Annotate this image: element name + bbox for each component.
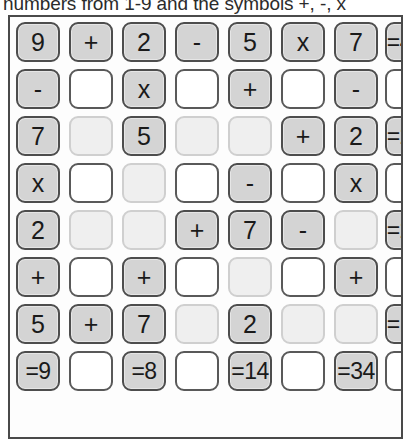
puzzle-cell-r1-c2: + <box>69 22 113 62</box>
puzzle-cell-r4-c7: x <box>334 163 378 203</box>
puzzle-cell-r6-c3: + <box>122 257 166 297</box>
puzzle-cell-r6-c2[interactable] <box>69 257 113 297</box>
puzzle-cell-r3-c7: 2 <box>334 116 378 156</box>
instruction-text: se numbers from 1-9 and the symbols +, -… <box>0 0 346 15</box>
puzzle-cell-r5-c1: 2 <box>16 210 60 250</box>
puzzle-cell-r7-c5: 2 <box>228 304 272 344</box>
puzzle-cell-r2-c5: + <box>228 69 272 109</box>
puzzle-cell-r4-c8[interactable] <box>385 163 403 203</box>
puzzle-cell-r5-c4: + <box>175 210 219 250</box>
puzzle-cell-r5-c2[interactable] <box>69 210 113 250</box>
puzzle-cell-r8-c2[interactable] <box>69 351 113 391</box>
puzzle-cell-r1-c7: 7 <box>334 22 378 62</box>
puzzle-cell-r6-c1: + <box>16 257 60 297</box>
puzzle-cell-r1-c8: =42 <box>385 22 403 62</box>
puzzle-cell-r2-c4[interactable] <box>175 69 219 109</box>
puzzle-cell-r6-c7: + <box>334 257 378 297</box>
puzzle-cell-r4-c2[interactable] <box>69 163 113 203</box>
puzzle-cell-r6-c6[interactable] <box>281 257 325 297</box>
puzzle-grid: 9+2-5x7=42-x+-75+2=20x-x2+7-=20+++5+72=1… <box>12 19 403 394</box>
puzzle-cell-r6-c4[interactable] <box>175 257 219 297</box>
puzzle-cell-r4-c3[interactable] <box>122 163 166 203</box>
puzzle-cell-r1-c6: x <box>281 22 325 62</box>
puzzle-cell-r6-c5[interactable] <box>228 257 272 297</box>
puzzle-cell-r7-c7[interactable] <box>334 304 378 344</box>
puzzle-cell-r4-c5: - <box>228 163 272 203</box>
puzzle-cell-r8-c6[interactable] <box>281 351 325 391</box>
puzzle-cell-r7-c1: 5 <box>16 304 60 344</box>
puzzle-cell-r3-c1: 7 <box>16 116 60 156</box>
puzzle-cell-r5-c5: 7 <box>228 210 272 250</box>
puzzle-cell-r7-c4[interactable] <box>175 304 219 344</box>
puzzle-cell-r3-c5[interactable] <box>228 116 272 156</box>
puzzle-cell-r1-c4: - <box>175 22 219 62</box>
puzzle-cell-r2-c8[interactable] <box>385 69 403 109</box>
puzzle-cell-r8-c3: =8 <box>122 351 166 391</box>
puzzle-cell-r1-c1: 9 <box>16 22 60 62</box>
puzzle-cell-r3-c8: =20 <box>385 116 403 156</box>
puzzle-cell-r6-c8[interactable] <box>385 257 403 297</box>
puzzle-cell-r3-c2[interactable] <box>69 116 113 156</box>
puzzle-cell-r5-c8: =20 <box>385 210 403 250</box>
puzzle-cell-r8-c1: =9 <box>16 351 60 391</box>
instruction-bar: se numbers from 1-9 and the symbols +, -… <box>0 0 411 16</box>
puzzle-cell-r5-c3[interactable] <box>122 210 166 250</box>
puzzle-cell-r2-c6[interactable] <box>281 69 325 109</box>
puzzle-cell-r1-c5: 5 <box>228 22 272 62</box>
puzzle-cell-r3-c3: 5 <box>122 116 166 156</box>
puzzle-cell-r7-c2: + <box>69 304 113 344</box>
puzzle-frame: 9+2-5x7=42-x+-75+2=20x-x2+7-=20+++5+72=1… <box>8 15 403 439</box>
puzzle-cell-r1-c3: 2 <box>122 22 166 62</box>
puzzle-cell-r7-c3: 7 <box>122 304 166 344</box>
puzzle-cell-r4-c1: x <box>16 163 60 203</box>
puzzle-cell-r2-c3: x <box>122 69 166 109</box>
puzzle-cell-r7-c6[interactable] <box>281 304 325 344</box>
puzzle-cell-r5-c7[interactable] <box>334 210 378 250</box>
puzzle-cell-r2-c1: - <box>16 69 60 109</box>
puzzle-cell-r3-c6: + <box>281 116 325 156</box>
puzzle-cell-r7-c8: =15 <box>385 304 403 344</box>
puzzle-cell-r4-c6[interactable] <box>281 163 325 203</box>
puzzle-cell-r8-c4[interactable] <box>175 351 219 391</box>
puzzle-cell-r4-c4[interactable] <box>175 163 219 203</box>
puzzle-cell-r8-c8[interactable] <box>385 351 403 391</box>
puzzle-cell-r8-c7: =34 <box>334 351 378 391</box>
puzzle-cell-r2-c7: - <box>334 69 378 109</box>
puzzle-cell-r5-c6: - <box>281 210 325 250</box>
puzzle-cell-r3-c4[interactable] <box>175 116 219 156</box>
puzzle-cell-r8-c5: =14 <box>228 351 272 391</box>
puzzle-cell-r2-c2[interactable] <box>69 69 113 109</box>
